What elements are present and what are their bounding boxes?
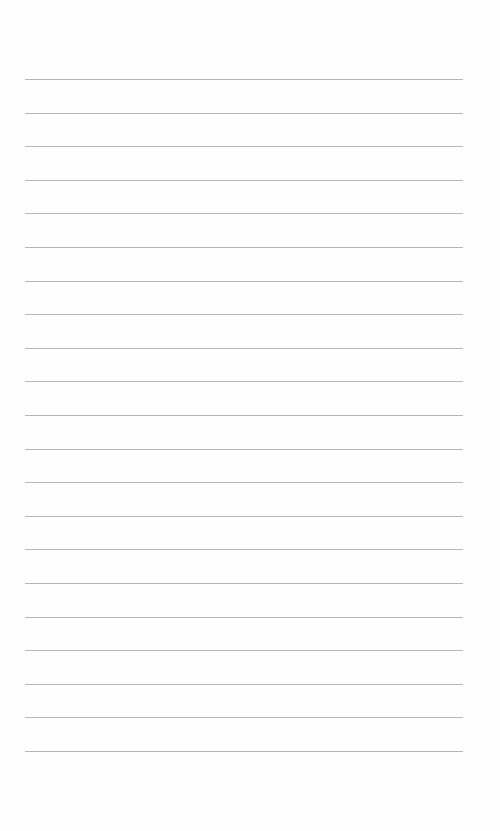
lined-paper-page [0,0,500,831]
ruled-line [25,549,463,550]
ruled-line [25,717,463,718]
ruled-line [25,650,463,651]
ruled-line [25,180,463,181]
ruled-line [25,415,463,416]
ruled-line [25,684,463,685]
ruled-line [25,213,463,214]
ruled-line [25,482,463,483]
ruled-line [25,617,463,618]
ruled-line [25,381,463,382]
ruled-line [25,516,463,517]
ruled-line [25,79,463,80]
ruled-line [25,583,463,584]
ruled-line [25,247,463,248]
ruled-line [25,751,463,752]
ruled-line [25,113,463,114]
ruled-line [25,348,463,349]
ruled-line [25,281,463,282]
ruled-line [25,314,463,315]
ruled-line [25,146,463,147]
ruled-line [25,449,463,450]
